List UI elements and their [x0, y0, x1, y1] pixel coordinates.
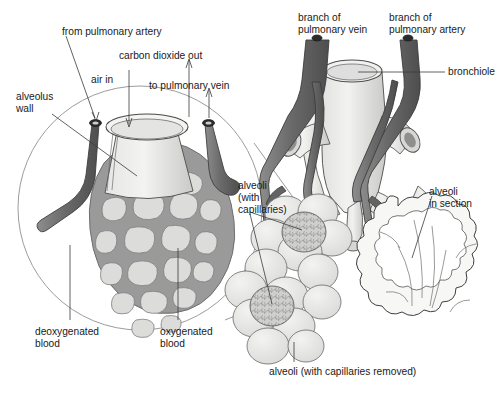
label-bronchiole: bronchiole	[448, 66, 495, 78]
alveolar-duct	[105, 114, 193, 199]
label-alveoli-with-capillaries: alveoli (with capillaries)	[238, 180, 287, 216]
label-air-in: air in	[91, 74, 113, 86]
label-alveoli-with-capillaries-removed: alveoli (with capillaries removed)	[269, 366, 416, 378]
alveoli-with-capillaries-cluster	[225, 194, 352, 364]
label-deoxygenated-blood: deoxygenated blood	[35, 326, 99, 350]
alveoli-in-section	[356, 192, 477, 315]
label-oxygenated-blood: oxygenated blood	[160, 326, 213, 350]
label-carbon-dioxide-out: carbon dioxide out	[119, 50, 202, 62]
label-branch-of-pulmonary-artery: branch of pulmonary artery	[389, 12, 465, 36]
label-from-pulmonary-artery: from pulmonary artery	[62, 26, 162, 38]
label-branch-of-pulmonary-vein: branch of pulmonary vein	[298, 12, 367, 36]
label-alveoli-in-section: alveoli in section	[429, 186, 472, 210]
label-to-pulmonary-vein: to pulmonary vein	[149, 80, 229, 92]
label-alveolus-wall: alveolus wall	[16, 91, 53, 115]
